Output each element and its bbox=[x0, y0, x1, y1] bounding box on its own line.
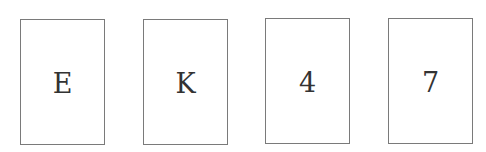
card-label: 4 bbox=[299, 69, 316, 96]
card-k[interactable]: K bbox=[143, 19, 228, 145]
card-label: K bbox=[175, 70, 195, 97]
card-label: E bbox=[53, 70, 73, 97]
card-4[interactable]: 4 bbox=[265, 18, 350, 144]
card-7[interactable]: 7 bbox=[388, 18, 473, 144]
card-label: 7 bbox=[422, 69, 439, 96]
card-e[interactable]: E bbox=[20, 19, 105, 145]
